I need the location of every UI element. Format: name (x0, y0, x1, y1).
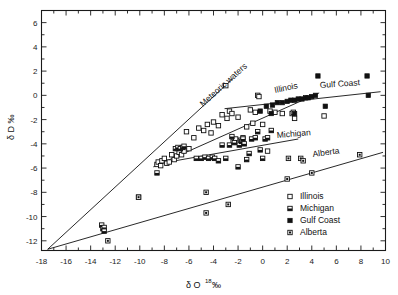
data-point (269, 111, 273, 115)
isotope-scatter-figure: -18-16-14-12-10-8-6-4-20246810 6420-2-4-… (0, 0, 398, 295)
x-tick-label: 4 (310, 257, 315, 266)
data-point (227, 143, 231, 147)
data-point (313, 93, 317, 97)
data-point (224, 156, 228, 160)
data-point (256, 130, 260, 134)
data-point (253, 110, 257, 114)
data-point (265, 149, 269, 153)
data-point (241, 137, 245, 141)
data-point (358, 153, 362, 157)
legend-label: Michigan (300, 203, 334, 213)
legend-symbol-half-filled-square (288, 206, 292, 210)
data-point (187, 146, 191, 150)
data-point (244, 157, 248, 161)
x-axis-tick-labels: -18-16-14-12-10-8-6-4-20246810 (36, 257, 391, 266)
legend-label: Alberta (300, 227, 327, 237)
data-point (211, 120, 215, 124)
legend-symbol-filled-square (288, 218, 292, 222)
data-point (251, 121, 255, 125)
x-tick-label: -2 (235, 257, 243, 266)
data-point (184, 130, 188, 134)
data-point (248, 108, 252, 112)
data-point (204, 190, 208, 194)
data-point (242, 142, 246, 146)
data-point (260, 122, 264, 126)
data-point (285, 177, 289, 181)
data-point (270, 103, 274, 107)
data-point (155, 171, 159, 175)
data-point (292, 116, 296, 120)
data-point (136, 195, 140, 199)
data-point (365, 74, 369, 78)
y-tick-label: 6 (33, 19, 38, 28)
data-point (253, 136, 257, 140)
data-point (197, 126, 201, 130)
data-point (323, 104, 327, 108)
data-point (310, 171, 314, 175)
data-point (286, 156, 290, 160)
data-point (257, 94, 261, 98)
x-tick-label: -12 (109, 257, 121, 266)
y-tick-label: 2 (33, 67, 38, 76)
legend-label: Gulf Coast (300, 215, 341, 225)
data-point (226, 202, 230, 206)
plot-canvas: -18-16-14-12-10-8-6-4-20246810 6420-2-4-… (0, 0, 398, 295)
data-point (292, 111, 296, 115)
y-tick-label: 4 (33, 43, 38, 52)
data-point (264, 104, 268, 108)
data-point (244, 125, 248, 129)
x-tick-label: -18 (36, 257, 48, 266)
y-tick-label: -12 (26, 237, 38, 246)
data-point (220, 143, 224, 147)
data-point (258, 109, 262, 113)
x-tick-label: -6 (185, 257, 193, 266)
x-tick-label: 10 (381, 257, 390, 266)
y-tick-label: -10 (26, 213, 38, 222)
y-tick-label: -6 (30, 164, 38, 173)
x-tick-label: 2 (285, 257, 290, 266)
data-point (230, 111, 234, 115)
data-point (192, 136, 196, 140)
legend-label: Illinois (300, 191, 324, 201)
data-point (265, 136, 269, 140)
data-point (209, 131, 213, 135)
data-point (258, 148, 262, 152)
data-point (205, 122, 209, 126)
data-point (260, 156, 264, 160)
data-point (280, 100, 284, 104)
data-point (102, 229, 106, 233)
x-axis-title-unit: ‰ (212, 280, 221, 290)
data-point (280, 111, 284, 115)
x-tick-label: 6 (334, 257, 339, 266)
x-tick-label: -10 (134, 257, 146, 266)
data-point (106, 239, 110, 243)
data-point (216, 159, 220, 163)
data-point (182, 144, 186, 148)
data-point (170, 153, 174, 157)
y-tick-label: -2 (30, 116, 38, 125)
x-axis-title: δ O (186, 280, 201, 290)
data-point (301, 159, 305, 163)
y-tick-label: -4 (30, 140, 38, 149)
data-point (236, 115, 240, 119)
data-point (194, 156, 198, 160)
data-point (225, 116, 229, 120)
x-tick-label: -16 (60, 257, 72, 266)
data-point (158, 163, 162, 167)
data-point (201, 128, 205, 132)
data-point (366, 93, 370, 97)
y-tick-label: 0 (33, 91, 38, 100)
data-point (236, 165, 240, 169)
data-point (275, 100, 279, 104)
data-point (322, 114, 326, 118)
x-tick-label: 8 (359, 257, 364, 266)
legend-symbol-dotted-square (288, 230, 292, 234)
data-point (220, 113, 224, 117)
data-point (269, 128, 273, 132)
y-tick-label: -8 (30, 188, 38, 197)
data-point (316, 74, 320, 78)
data-point (204, 211, 208, 215)
legend-symbol-open-square (288, 194, 292, 198)
y-axis-title: δ D ‰ (6, 114, 16, 140)
data-point (230, 134, 234, 138)
